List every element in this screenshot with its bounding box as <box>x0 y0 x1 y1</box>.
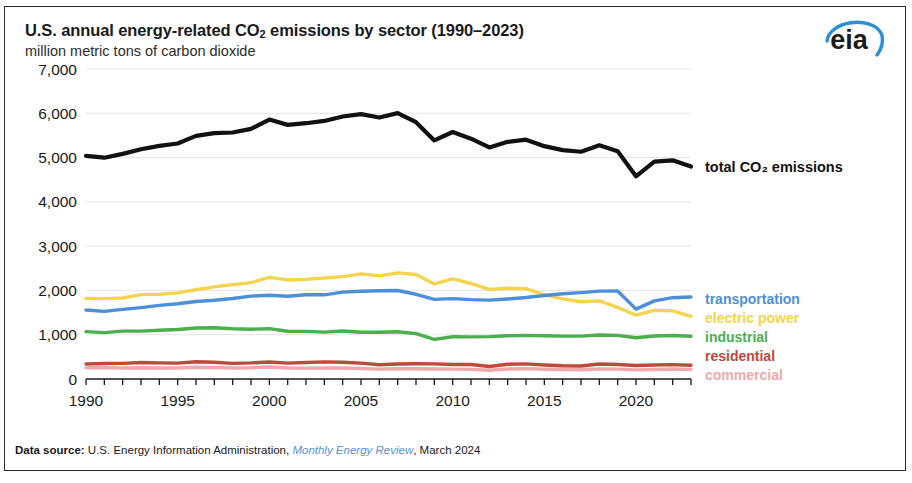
eia-logo: eia <box>815 13 891 63</box>
series-label-residential: residential <box>705 348 775 364</box>
x-axis-tick-label: 2020 <box>619 392 654 409</box>
y-axis-tick-label: 0 <box>68 371 77 388</box>
page-title: U.S. annual energy-related CO2 emissions… <box>25 21 524 40</box>
x-axis-tick-label: 2010 <box>435 392 470 409</box>
series-line-industrial <box>86 328 691 340</box>
series-label-total-co2: total CO₂ emissions <box>705 159 843 175</box>
chart-canvas: 7,0006,0005,0004,0003,0002,0001,00001990… <box>5 7 907 472</box>
x-axis-tick-label: 1990 <box>69 392 104 409</box>
series-label-electric-power: electric power <box>705 310 800 326</box>
y-axis-tick-label: 7,000 <box>38 61 77 78</box>
series-line-electric-power <box>86 273 691 316</box>
chart-subtitle: million metric tons of carbon dioxide <box>25 43 256 59</box>
x-axis-tick-label: 2015 <box>527 392 561 409</box>
chart-screenshot: U.S. annual energy-related CO2 emissions… <box>0 0 912 483</box>
series-label-commercial: commercial <box>705 367 783 383</box>
title-text-part2: emissions by sector (1990–2023) <box>266 21 524 39</box>
series-label-transportation: transportation <box>705 291 800 307</box>
title-text-part1: U.S. annual energy-related CO <box>25 21 260 39</box>
line-chart-svg: 7,0006,0005,0004,0003,0002,0001,00001990… <box>5 7 907 472</box>
series-line-total-co2-emissions <box>86 113 691 176</box>
series-line-transportation <box>86 290 691 311</box>
eia-logo-svg: eia <box>815 13 891 63</box>
series-line-residential <box>86 362 691 367</box>
eia-logo-text: eia <box>830 25 869 55</box>
series-line-commercial <box>86 367 691 370</box>
y-axis-tick-label: 3,000 <box>38 238 77 255</box>
x-axis-tick-label: 2005 <box>344 392 378 409</box>
x-axis-tick-label: 2000 <box>252 392 287 409</box>
data-source-note: Data source: U.S. Energy Information Adm… <box>15 444 480 456</box>
x-axis-tick-label: 1995 <box>160 392 194 409</box>
source-agency: U.S. Energy Information Administration, <box>85 444 293 456</box>
y-axis-tick-label: 4,000 <box>38 193 77 210</box>
y-axis-tick-label: 5,000 <box>38 149 77 166</box>
y-axis-tick-label: 6,000 <box>38 105 77 122</box>
source-publication[interactable]: Monthly Energy Review <box>292 444 413 456</box>
chart-frame: U.S. annual energy-related CO2 emissions… <box>4 6 906 471</box>
y-axis-tick-label: 1,000 <box>38 326 77 343</box>
source-label: Data source: <box>15 444 85 456</box>
y-axis-tick-label: 2,000 <box>38 282 77 299</box>
source-date: , March 2024 <box>413 444 480 456</box>
series-label-industrial: industrial <box>705 329 768 345</box>
